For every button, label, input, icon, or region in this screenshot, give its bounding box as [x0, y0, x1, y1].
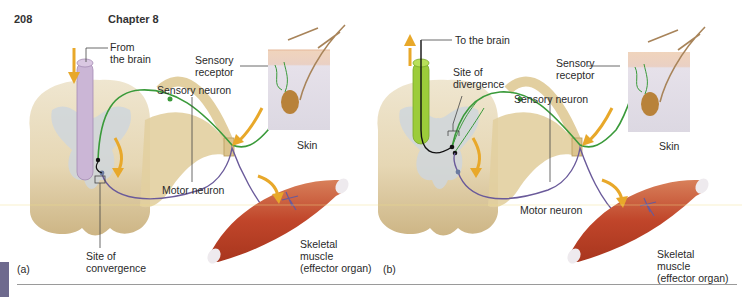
- page-edge-tab: [0, 262, 9, 297]
- panel-label-a: (a): [17, 263, 30, 275]
- label-skeletal-muscle-a: Skeletal muscle (effector organ): [300, 238, 372, 274]
- skin-block-a: [268, 25, 345, 130]
- label-skeletal-muscle-b: Skeletal muscle (effector organ): [657, 248, 729, 284]
- label-motor-neuron-a: Motor neuron: [162, 184, 224, 196]
- label-from-brain: From the brain: [110, 41, 151, 65]
- skin-block-b: [628, 27, 705, 132]
- label-motor-neuron-b: Motor neuron: [520, 204, 582, 216]
- label-site-of-convergence: Site of convergence: [86, 250, 146, 274]
- label-sensory-neuron-a: Sensory neuron: [157, 84, 231, 96]
- bottom-divider: [17, 284, 737, 285]
- label-skin-a: Skin: [297, 139, 317, 151]
- arrow-up-icon: [404, 34, 416, 46]
- label-skin-b: Skin: [659, 140, 679, 152]
- label-sensory-receptor-a: Sensory receptor: [195, 54, 234, 78]
- label-site-of-divergence: Site of divergence: [453, 66, 504, 90]
- label-to-brain: To the brain: [455, 34, 510, 46]
- label-sensory-receptor-b: Sensory receptor: [556, 57, 595, 81]
- panel-label-b: (b): [383, 263, 396, 275]
- tract-a: [77, 62, 93, 180]
- label-sensory-neuron-b: Sensory neuron: [514, 93, 588, 105]
